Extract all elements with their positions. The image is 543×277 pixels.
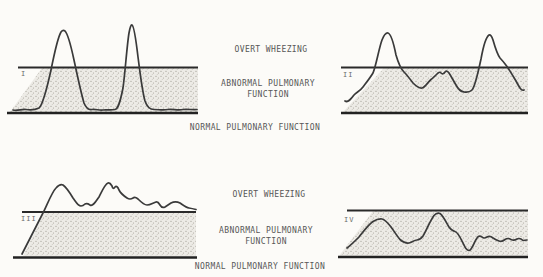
abnormal-pulmonary-label-top-line1: ABNORMAL PULMONARY <box>221 79 315 90</box>
abnormal-zone-band <box>23 213 196 256</box>
normal-pulmonary-label-bottom: NORMAL PULMONARY FUNCTION <box>195 262 325 271</box>
abnormal-pulmonary-label-top: ABNORMAL PULMONARY FUNCTION <box>221 79 315 100</box>
abnormal-zone-band <box>10 68 198 112</box>
panel-1: I <box>7 25 198 113</box>
overt-wheezing-label-bottom: OVERT WHEEZING <box>232 190 305 199</box>
panel-3: III <box>13 183 197 258</box>
overt-wheezing-label-top: OVERT WHEEZING <box>234 45 307 54</box>
abnormal-pulmonary-label-bottom: ABNORMAL PULMONARY FUNCTION <box>219 226 313 247</box>
four-pattern-wheezing-figure: I II III IV OVERT WHEEZING AB <box>0 0 543 277</box>
panel-4: IV <box>338 211 528 258</box>
panel-3-numeral: III <box>21 215 37 223</box>
normal-pulmonary-label-top: NORMAL PULMONARY FUNCTION <box>190 123 320 132</box>
panel-2: II <box>341 33 528 113</box>
abnormal-pulmonary-label-bottom-line1: ABNORMAL PULMONARY <box>219 226 313 237</box>
panel-1-numeral: I <box>21 70 26 78</box>
abnormal-pulmonary-label-bottom-line2: FUNCTION <box>219 237 313 248</box>
panel-2-numeral: II <box>343 71 353 79</box>
panel-4-numeral: IV <box>344 216 354 224</box>
abnormal-pulmonary-label-top-line2: FUNCTION <box>221 90 315 101</box>
